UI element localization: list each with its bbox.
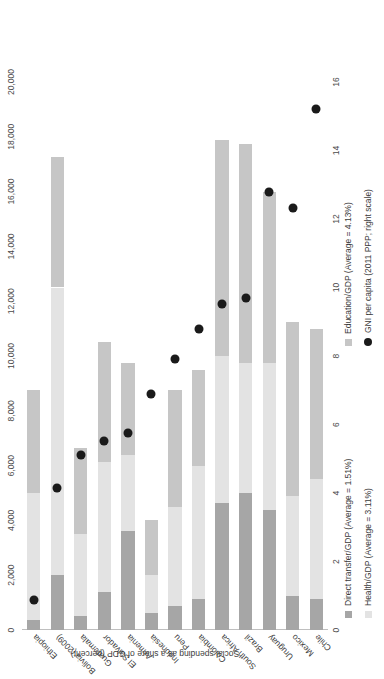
bar-segment-health[interactable]	[98, 462, 111, 592]
gni-marker[interactable]	[147, 390, 156, 399]
bar-row[interactable]	[98, 82, 111, 630]
bar-segment-direct[interactable]	[192, 599, 205, 630]
bar-segment-direct[interactable]	[263, 510, 276, 630]
bar-row[interactable]	[215, 82, 228, 630]
legend-column: Direct transfer/GDP (Average = 1.51%)Hea…	[338, 459, 378, 618]
bars-layer	[22, 82, 328, 630]
bar-segment-direct[interactable]	[215, 503, 228, 630]
bar-segment-health[interactable]	[121, 455, 134, 530]
legend-label: Health/GDP (Average = 3.11%)	[363, 488, 373, 606]
gni-marker[interactable]	[170, 354, 179, 363]
legend-square-icon	[345, 339, 352, 346]
bar-segment-education[interactable]	[310, 329, 323, 480]
right-axis-tick-18000: 18,000	[6, 115, 16, 159]
gni-marker[interactable]	[123, 428, 132, 437]
right-axis-tick-16000: 16,000	[6, 170, 16, 214]
bar-row[interactable]	[192, 82, 205, 630]
bar-segment-health[interactable]	[51, 288, 64, 576]
legend-item[interactable]: GNI per capita (2011 PPP; right scale)	[358, 189, 378, 346]
bar-row[interactable]	[310, 82, 323, 630]
bar-segment-education[interactable]	[263, 192, 276, 363]
bar-segment-health[interactable]	[263, 363, 276, 510]
legend-item[interactable]: Direct transfer/GDP (Average = 1.51%)	[338, 459, 358, 618]
gni-marker[interactable]	[29, 595, 38, 604]
bar-segment-education[interactable]	[121, 363, 134, 455]
bar-segment-direct[interactable]	[98, 592, 111, 630]
bar-segment-health[interactable]	[215, 356, 228, 503]
legend-label: Direct transfer/GDP (Average = 1.51%)	[343, 459, 353, 606]
bar-segment-education[interactable]	[51, 157, 64, 287]
gni-marker[interactable]	[312, 105, 321, 114]
legend-item[interactable]: Health/GDP (Average = 3.11%)	[358, 459, 378, 618]
bar-segment-education[interactable]	[27, 390, 40, 493]
bar-row[interactable]	[168, 82, 181, 630]
right-axis-tick-2000: 2,000	[6, 553, 16, 597]
bar-segment-education[interactable]	[145, 520, 158, 575]
right-axis-tick-14000: 14,000	[6, 224, 16, 268]
legend-label: GNI per capita (2011 PPP; right scale)	[363, 189, 373, 333]
bar-segment-health[interactable]	[286, 496, 299, 595]
right-axis-tick-10000: 10,000	[6, 334, 16, 378]
bar-segment-education[interactable]	[74, 448, 87, 534]
bar-segment-direct[interactable]	[239, 493, 252, 630]
bar-segment-health[interactable]	[310, 479, 323, 599]
bar-row[interactable]	[121, 82, 134, 630]
legend-dot-icon	[364, 338, 372, 346]
bar-row[interactable]	[27, 82, 40, 630]
bar-segment-direct[interactable]	[145, 613, 158, 630]
bar-segment-direct[interactable]	[51, 575, 64, 630]
bar-segment-health[interactable]	[239, 363, 252, 493]
bar-segment-direct[interactable]	[74, 616, 87, 630]
bar-segment-health[interactable]	[74, 534, 87, 616]
bar-row[interactable]	[263, 82, 276, 630]
bar-segment-education[interactable]	[168, 390, 181, 506]
gni-marker[interactable]	[53, 483, 62, 492]
right-axis-tick-12000: 12,000	[6, 279, 16, 323]
bar-segment-direct[interactable]	[310, 599, 323, 630]
legend-item[interactable]: Education/GDP (Average = 4.13%)	[338, 189, 358, 346]
bar-row[interactable]	[239, 82, 252, 630]
bar-row[interactable]	[145, 82, 158, 630]
bar-segment-direct[interactable]	[168, 606, 181, 630]
chart-legend: Direct transfer/GDP (Average = 1.51%)Hea…	[338, 18, 382, 618]
gni-marker[interactable]	[265, 187, 274, 196]
legend-square-icon	[365, 611, 372, 618]
right-axis-tick-20000: 20,000	[6, 60, 16, 104]
legend-label: Education/GDP (Average = 4.13%)	[343, 202, 353, 334]
bar-segment-education[interactable]	[239, 144, 252, 363]
bar-row[interactable]	[51, 82, 64, 630]
right-axis-tick-4000: 4,000	[6, 498, 16, 542]
legend-column: Education/GDP (Average = 4.13%)GNI per c…	[338, 189, 378, 346]
bar-segment-direct[interactable]	[121, 531, 134, 630]
bar-segment-health[interactable]	[192, 466, 205, 600]
gni-marker[interactable]	[76, 450, 85, 459]
gni-marker[interactable]	[194, 324, 203, 333]
legend-square-icon	[345, 611, 352, 618]
bar-segment-education[interactable]	[192, 370, 205, 466]
gni-marker[interactable]	[100, 436, 109, 445]
bar-row[interactable]	[286, 82, 299, 630]
gni-marker[interactable]	[241, 294, 250, 303]
right-axis-tick-0: 0	[6, 608, 16, 652]
bar-segment-education[interactable]	[286, 322, 299, 497]
right-axis-tick-8000: 8,000	[6, 389, 16, 433]
bar-row[interactable]	[74, 82, 87, 630]
bar-segment-health[interactable]	[145, 575, 158, 613]
right-axis-tick-6000: 6,000	[6, 444, 16, 488]
bar-segment-direct[interactable]	[27, 620, 40, 630]
bar-segment-health[interactable]	[168, 507, 181, 606]
bar-segment-direct[interactable]	[286, 596, 299, 630]
gni-marker[interactable]	[218, 299, 227, 308]
bar-segment-education[interactable]	[215, 140, 228, 356]
gni-marker[interactable]	[288, 204, 297, 213]
